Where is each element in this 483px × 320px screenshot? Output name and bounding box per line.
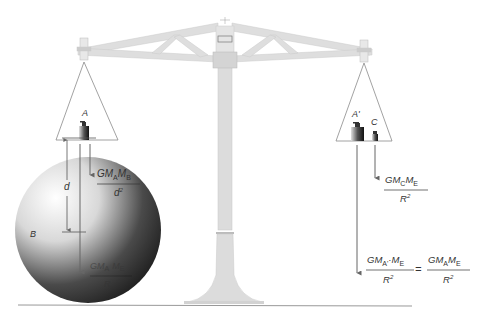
formula-f-ce: GMCME R2 bbox=[384, 174, 428, 204]
svg-text:GMAME: GMAME bbox=[428, 254, 461, 267]
svg-text:R2: R2 bbox=[400, 193, 411, 204]
balance-diagram: A A' C B d GMAMB d2 GMAME R GMCME R2 GMA… bbox=[0, 0, 483, 320]
label-d: d bbox=[64, 181, 70, 192]
weight-c bbox=[372, 131, 378, 141]
balance-beam bbox=[77, 17, 372, 68]
svg-text:GMA'·ME: GMA'·ME bbox=[367, 254, 404, 267]
label-c: C bbox=[371, 117, 378, 127]
svg-text:R2: R2 bbox=[443, 274, 454, 285]
ground-line bbox=[18, 305, 412, 306]
weight-a-prime bbox=[351, 122, 364, 141]
label-a-prime: A' bbox=[351, 109, 360, 119]
svg-text:=: = bbox=[415, 263, 422, 275]
label-b: B bbox=[30, 229, 36, 239]
label-a: A bbox=[81, 108, 88, 118]
svg-text:GMCME: GMCME bbox=[385, 174, 418, 187]
sphere-b bbox=[15, 157, 161, 303]
svg-text:R: R bbox=[104, 279, 111, 289]
formula-equality: GMA'·ME R2 = GMAME R2 bbox=[366, 254, 470, 285]
weight-a bbox=[79, 121, 89, 140]
svg-text:R2: R2 bbox=[383, 274, 394, 285]
balance-stand bbox=[184, 60, 264, 304]
